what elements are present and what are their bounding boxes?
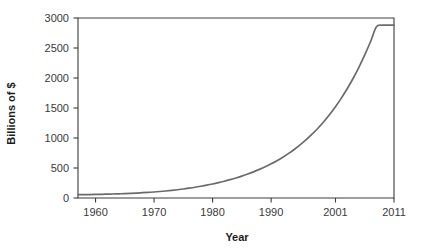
y-axis-tick-label: 0 — [0, 193, 69, 204]
y-axis-tick-label: 500 — [0, 163, 69, 174]
y-axis-ticks — [74, 18, 79, 198]
x-axis-tick-label: 1990 — [259, 207, 283, 218]
y-axis-tick-label: 3000 — [0, 13, 69, 24]
x-axis-ticks — [96, 198, 394, 203]
y-axis-title: Billions of $ — [6, 82, 17, 144]
y-axis-tick-label: 2500 — [0, 43, 69, 54]
x-axis-tick-label: 1980 — [200, 207, 224, 218]
x-axis-title: Year — [225, 232, 248, 243]
x-axis-tick-label: 1970 — [142, 207, 166, 218]
x-axis-tick-label: 1960 — [83, 207, 107, 218]
data-series-line — [78, 25, 394, 195]
x-axis-tick-label: 2011 — [382, 207, 406, 218]
axis-frame — [78, 18, 394, 198]
plot-frame — [78, 18, 394, 198]
chart-figure: 050010001500200025003000 196019701980199… — [0, 0, 424, 251]
x-axis-tick-label: 2001 — [323, 207, 347, 218]
